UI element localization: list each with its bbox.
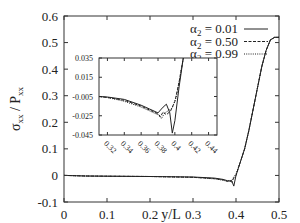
y-axis-label-mid: / P — [8, 96, 23, 115]
legend: α2 = 0.01α2 = 0.50α2 = 0.99 — [190, 21, 268, 63]
x-tick-label: 0.3 — [185, 207, 201, 222]
inset-y-tick-label: 0.015 — [75, 73, 93, 82]
inset-x-tick-label: 0.38 — [153, 139, 169, 155]
inset-x-tick-label: 0.4 — [169, 139, 182, 152]
y-tick-label: 0.3 — [42, 88, 58, 103]
x-tick-label: 0.1 — [99, 207, 115, 222]
inset-x-tick-label: 0.42 — [186, 139, 202, 155]
inset-y-tick-label: -0.005 — [72, 93, 93, 102]
inset-frame — [99, 58, 217, 135]
y-tick-label: 0.2 — [42, 115, 58, 130]
x-axis-label: y/L — [161, 207, 180, 222]
stress-profile-chart: -0.100.10.20.30.40.50.6 00.10.20.30.40.5… — [0, 0, 300, 223]
y-tick-label: 0.4 — [42, 62, 59, 77]
inset-plot: 0.0350.015-0.005-0.025-0.0450.320.340.36… — [72, 54, 219, 155]
inset-y-tick-label: -0.025 — [72, 112, 93, 121]
inset-y-tick-label: 0.035 — [75, 54, 93, 63]
x-tick-label: 0.2 — [142, 207, 158, 222]
y-tick-label: 0.1 — [42, 141, 58, 156]
inset-x-tick-label: 0.44 — [203, 139, 219, 155]
y-tick-label: 0.6 — [42, 9, 59, 24]
inset-y-tick-label: -0.045 — [72, 131, 93, 140]
y-tick-label: 0.5 — [42, 35, 58, 50]
x-tick-label: 0.5 — [271, 207, 287, 222]
y-tick-label: -0.1 — [37, 195, 58, 210]
x-tick-label: 0.4 — [228, 207, 245, 222]
inset-x-tick-label: 0.36 — [136, 139, 152, 155]
inset-x-tick-label: 0.32 — [102, 139, 118, 155]
inset-x-tick-label: 0.34 — [119, 139, 135, 155]
x-tick-label: 0 — [61, 207, 68, 222]
y-tick-label: 0 — [52, 168, 59, 183]
y-axis-label-sub2: xx — [15, 86, 25, 96]
y-axis-label: σxx / Pxx — [8, 86, 25, 131]
